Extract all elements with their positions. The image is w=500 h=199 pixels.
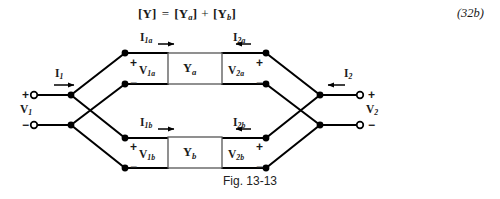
circuit-svg bbox=[0, 32, 500, 172]
label-i2a: I2a bbox=[233, 32, 245, 45]
label-v1b-minus: − bbox=[130, 161, 137, 173]
label-block-ya: Ya bbox=[183, 62, 196, 76]
equation-term-b-close: ] bbox=[232, 6, 237, 21]
label-v2a-plus: + bbox=[256, 57, 263, 69]
equation-equals: = bbox=[162, 6, 170, 21]
node-ya-in-bottom bbox=[122, 81, 129, 88]
wire-ya-bottom-to-right-bottom bbox=[266, 84, 320, 125]
node-yb-out-bottom bbox=[263, 165, 270, 172]
label-i2: I2 bbox=[344, 68, 352, 81]
label-v2: V2 bbox=[366, 104, 378, 117]
node-right-top bbox=[317, 92, 324, 99]
label-v1a-minus: − bbox=[130, 77, 137, 89]
label-i1: I1 bbox=[55, 68, 63, 81]
node-ya-in-top bbox=[122, 50, 129, 57]
equation-row: [Y]=[Ya]+[Yb] (32b) bbox=[0, 6, 500, 28]
port-terminals bbox=[31, 92, 364, 129]
label-v2b-plus: + bbox=[256, 141, 263, 153]
wire-ya-top-to-right-top bbox=[266, 53, 320, 95]
equation-expression: [Y]=[Ya]+[Yb] bbox=[138, 6, 236, 22]
equation-term-b: [Y bbox=[213, 6, 227, 21]
label-i1b: I1b bbox=[140, 117, 152, 130]
label-port2-minus: − bbox=[368, 119, 375, 131]
label-v1b-plus: + bbox=[130, 141, 137, 153]
equation-term-a-close: ] bbox=[193, 6, 198, 21]
node-left-top bbox=[68, 92, 75, 99]
equation-plus: + bbox=[201, 6, 209, 21]
label-port2-plus: + bbox=[368, 89, 375, 101]
wire-left-bottom-to-ya-minus bbox=[71, 84, 125, 125]
label-v2b: V2b bbox=[228, 149, 244, 162]
wire-left-top-to-ya-plus bbox=[71, 53, 125, 95]
label-i2b: I2b bbox=[233, 117, 245, 130]
terminal-port1-negative bbox=[31, 122, 38, 129]
node-ya-out-top bbox=[263, 50, 270, 57]
label-v2b-minus: − bbox=[256, 161, 263, 173]
label-block-yb: Yb bbox=[183, 146, 196, 160]
terminal-port2-negative bbox=[357, 122, 364, 129]
equation-term-a: [Y bbox=[174, 6, 188, 21]
label-port1-minus: − bbox=[22, 119, 29, 131]
label-port1-plus: + bbox=[22, 89, 29, 101]
label-v2a: V2a bbox=[228, 65, 244, 78]
node-left-bottom bbox=[68, 122, 75, 129]
terminal-port2-positive bbox=[357, 92, 364, 99]
label-v1a-plus: + bbox=[130, 57, 137, 69]
label-v2a-minus: − bbox=[256, 77, 263, 89]
label-v1a: V1a bbox=[139, 65, 155, 78]
node-right-bottom bbox=[317, 122, 324, 129]
node-yb-out-top bbox=[263, 135, 270, 142]
node-yb-in-bottom bbox=[122, 165, 129, 172]
circuit-diagram: I1 + − V1 I2 + − V2 Ya I1a I2a + − V1a + bbox=[0, 32, 500, 172]
figure-page: [Y]=[Ya]+[Yb] (32b) bbox=[0, 0, 500, 199]
node-yb-in-top bbox=[122, 135, 129, 142]
label-v1b: V1b bbox=[139, 149, 155, 162]
equation-number: (32b) bbox=[457, 6, 484, 21]
equation-lhs: [Y] bbox=[138, 6, 157, 21]
node-ya-out-bottom bbox=[263, 81, 270, 88]
figure-caption: Fig. 13-13 bbox=[0, 174, 500, 188]
label-i1a: I1a bbox=[140, 32, 152, 45]
label-v1: V1 bbox=[20, 104, 32, 117]
terminal-port1-positive bbox=[31, 92, 38, 99]
